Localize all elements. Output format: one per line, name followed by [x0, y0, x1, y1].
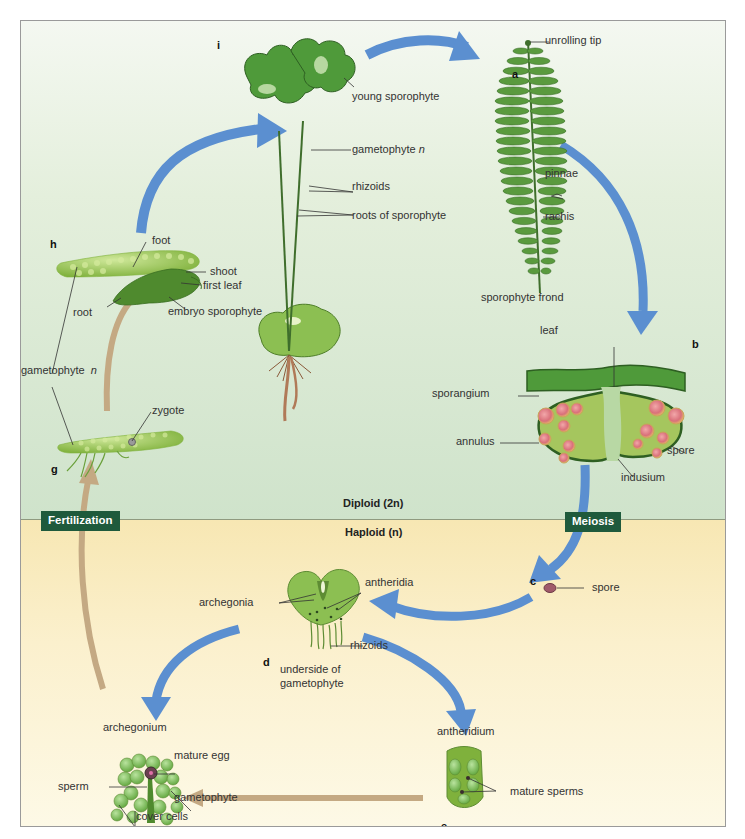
label-unrolling-tip: unrolling tip	[545, 35, 601, 46]
illustration-sorus-cross-section	[527, 365, 685, 463]
diploid-label: Diploid (2n)	[343, 498, 404, 509]
label-roots-of-sporophyte: roots of sporophyte	[352, 210, 446, 221]
fertilization-badge: Fertilization	[41, 511, 120, 531]
stage-letter-g: g	[51, 464, 58, 475]
label-mature-egg: mature egg	[174, 750, 230, 761]
stage-letter-e: e	[441, 821, 447, 827]
label-young-sporophyte: young sporophyte	[352, 91, 439, 102]
illustration-spore	[544, 584, 556, 593]
arrow-f-to-g	[79, 459, 103, 689]
label-gametophyte-n-i: gametophyte n	[352, 144, 425, 155]
stage-letter-d: d	[263, 657, 270, 668]
label-antheridia: antheridia	[365, 577, 413, 588]
illustration-young-sporophyte	[245, 39, 355, 421]
label-underside-gametophyte: gametophyte	[280, 678, 344, 689]
label-zygote: zygote	[152, 405, 184, 416]
stage-letter-c: c	[530, 576, 536, 587]
label-root: root	[73, 307, 92, 318]
meiosis-badge: Meiosis	[565, 512, 621, 532]
label-underside-of: underside of	[280, 664, 341, 675]
illustration-gametophyte-underside	[288, 569, 359, 649]
label-leaf: leaf	[540, 325, 558, 336]
label-shoot: shoot	[210, 266, 237, 277]
haploid-label: Haploid (n)	[345, 527, 402, 538]
label-sperm: sperm	[58, 781, 89, 792]
arrow-h-to-i	[141, 113, 287, 233]
stage-letter-f: f	[92, 826, 96, 827]
arrow-d-to-f	[141, 629, 239, 721]
stage-letter-a: a	[512, 69, 518, 80]
label-archegonia: archegonia	[199, 597, 253, 608]
label-annulus: annulus	[456, 436, 495, 447]
label-rachis: rachis	[545, 211, 574, 222]
label-indusium: indusium	[621, 472, 665, 483]
arrow-i-to-a	[367, 31, 480, 61]
label-mature-sperms: mature sperms	[510, 786, 583, 797]
stage-letter-i: i	[217, 40, 220, 51]
label-gametophyte-f: gametophyte	[174, 792, 238, 803]
stage-letter-b: b	[692, 339, 699, 350]
label-foot: foot	[152, 235, 170, 246]
stage-letter-h: h	[50, 239, 57, 250]
label-spore-b: spore	[667, 445, 695, 456]
label-antheridium: antheridium	[437, 726, 494, 737]
label-sporangium: sporangium	[432, 388, 489, 399]
label-cover-cells: cover cells	[136, 811, 188, 822]
diagram-frame: Diploid (2n) Haploid (n) Fertilization M…	[20, 20, 726, 827]
life-cycle-artwork	[21, 21, 725, 826]
label-rhizoids-i: rhizoids	[352, 181, 390, 192]
label-pinnae: pinnae	[545, 168, 578, 179]
label-first-leaf: first leaf	[203, 280, 242, 291]
arrow-d-to-e	[363, 637, 476, 736]
label-sporophyte-frond: sporophyte frond	[481, 292, 564, 303]
label-embryo-sporophyte: embryo sporophyte	[168, 306, 262, 317]
label-rhizoids-d: rhizoids	[350, 640, 388, 651]
illustration-embryo-sporophyte	[57, 251, 202, 305]
arrow-c-to-d	[369, 589, 531, 619]
label-gametophyte-n-shared: gametophyte n	[21, 365, 97, 376]
illustration-antheridium	[447, 747, 483, 808]
illustration-zygote-gametophyte	[58, 431, 184, 477]
label-archegonium: archegonium	[103, 722, 167, 733]
label-spore-c: spore	[592, 582, 620, 593]
